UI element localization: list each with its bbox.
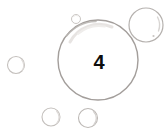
top-right-bubble-outline [129,8,163,42]
tiny-top-bubble [72,15,81,24]
top-right-bubble [129,8,163,42]
bottom-right-bubble [79,109,98,128]
bottom-left-bubble [42,108,60,126]
tiny-top-bubble-outline [72,15,81,24]
left-bubble [8,57,25,74]
bubble-image-canvas: 4 [0,0,166,135]
bubble-count-label: 4 [79,52,119,72]
top-right-bubble-dot-highlight [152,35,154,37]
